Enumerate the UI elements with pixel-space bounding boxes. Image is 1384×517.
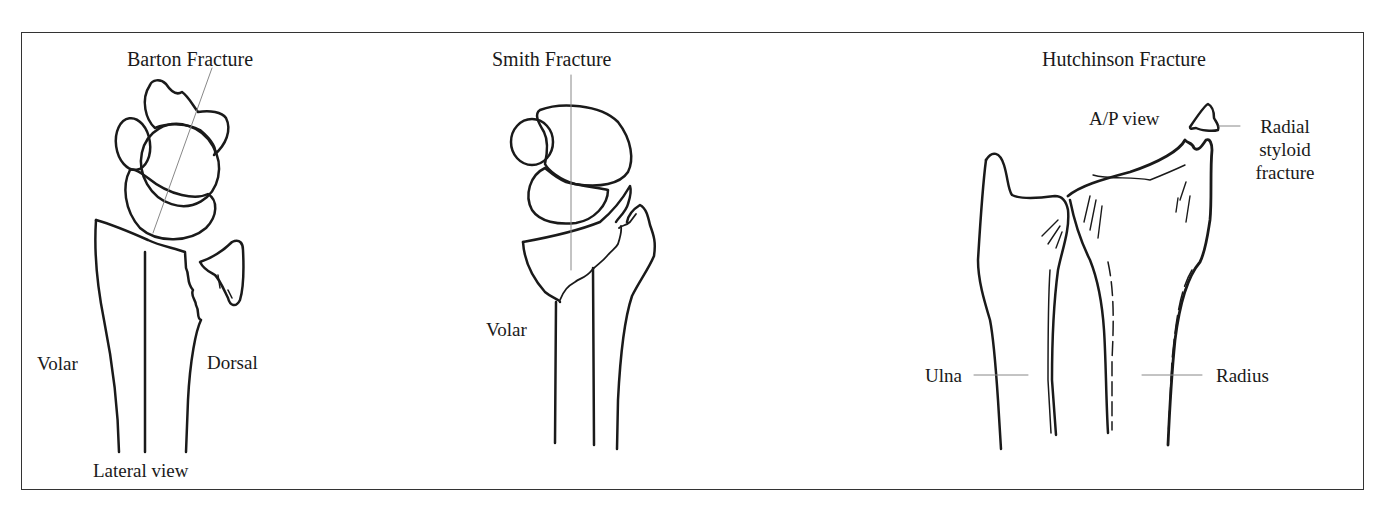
barton-view-label: Lateral view (93, 461, 188, 480)
hutchinson-title: Hutchinson Fracture (1042, 49, 1206, 69)
radial-styloid-line2: styloid (1240, 138, 1330, 161)
radial-styloid-line1: Radial (1240, 115, 1330, 138)
radius-label: Radius (1216, 366, 1269, 385)
smith-title: Smith Fracture (492, 49, 611, 69)
radial-styloid-fracture-label: Radial styloid fracture (1240, 115, 1330, 184)
barton-dorsal-label: Dorsal (207, 353, 258, 372)
fracture-illustrations (0, 0, 1384, 517)
radial-styloid-line3: fracture (1240, 161, 1330, 184)
smith-drawing (511, 75, 655, 449)
radial-styloid-fragment (1190, 104, 1219, 131)
hutchinson-view-label: A/P view (1089, 109, 1160, 128)
barton-drawing (95, 68, 243, 452)
ulna-label: Ulna (925, 366, 962, 385)
smith-volar-label: Volar (486, 320, 527, 339)
barton-volar-label: Volar (37, 354, 78, 373)
barton-title: Barton Fracture (127, 49, 253, 69)
hutchinson-drawing (974, 104, 1240, 449)
